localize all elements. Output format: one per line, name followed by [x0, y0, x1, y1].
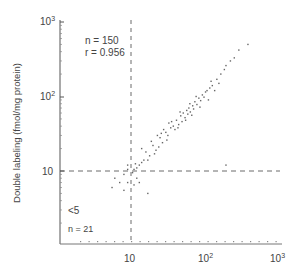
x-tick-10: 10 [124, 253, 136, 264]
below-threshold-point [233, 241, 234, 242]
data-point [191, 115, 192, 116]
data-point [132, 172, 133, 173]
data-point [141, 148, 142, 149]
data-point [139, 164, 140, 165]
data-point [189, 103, 190, 104]
below-threshold-point [191, 241, 192, 242]
below-threshold-point [276, 241, 277, 242]
below-threshold-point [259, 241, 260, 242]
data-point [163, 129, 164, 130]
below-threshold-point [131, 241, 132, 242]
data-point [136, 167, 137, 168]
data-point [187, 113, 188, 114]
data-point [158, 146, 159, 147]
data-point [147, 193, 148, 194]
below-threshold-point [89, 241, 90, 242]
data-point [123, 174, 124, 175]
data-point [147, 159, 148, 160]
annotation-n: n = 150 [85, 35, 119, 46]
below-threshold-point [148, 241, 149, 242]
below-threshold-point [250, 241, 251, 242]
scatter-chart: 103 102 10 10 102 103 n = 150 r = 0.956 … [0, 0, 299, 276]
data-point [198, 97, 199, 98]
data-point [119, 182, 120, 183]
data-point [111, 187, 112, 188]
data-point [161, 133, 162, 134]
data-point [133, 184, 134, 185]
data-point [165, 132, 166, 133]
data-point [177, 127, 178, 128]
data-point [174, 129, 175, 130]
below-threshold-point [242, 241, 243, 242]
below-threshold-point [114, 241, 115, 242]
data-point [173, 125, 174, 126]
data-point [238, 49, 239, 50]
data-point [123, 190, 124, 191]
annotation-n21: n = 21 [68, 224, 93, 234]
below-threshold-point [140, 241, 141, 242]
below-threshold-point [80, 241, 81, 242]
data-point [224, 69, 225, 70]
data-point [199, 106, 200, 107]
data-point [114, 178, 115, 179]
data-point [183, 112, 184, 113]
data-point [149, 155, 150, 156]
data-point [180, 115, 181, 116]
data-point [127, 164, 128, 165]
data-point [247, 44, 248, 45]
data-point [206, 90, 207, 91]
data-point [127, 169, 128, 170]
data-point [203, 96, 204, 97]
data-point [185, 120, 186, 121]
below-threshold-point [174, 241, 175, 242]
data-point [225, 164, 226, 165]
x-tick-1000: 103 [270, 252, 285, 264]
below-threshold-point [208, 241, 209, 242]
data-point [159, 137, 160, 138]
data-point [202, 94, 203, 95]
data-point [155, 150, 156, 151]
data-point [194, 101, 195, 102]
data-point [220, 73, 221, 74]
y-tick-100: 102 [40, 90, 55, 102]
data-point [135, 163, 136, 164]
data-point [139, 182, 140, 183]
data-point [127, 182, 128, 183]
data-point [145, 151, 146, 152]
y-axis-label: Double labeling (fmol/mg protein) [11, 63, 22, 203]
data-point [133, 169, 134, 170]
data-point [154, 153, 155, 154]
data-point [151, 141, 152, 142]
data-point [143, 159, 144, 160]
below-threshold-point [216, 241, 217, 242]
data-point [188, 107, 189, 108]
below-threshold-point [225, 241, 226, 242]
data-point [167, 135, 168, 136]
below-threshold-point [199, 241, 200, 242]
data-point [186, 110, 187, 111]
data-point [176, 120, 177, 121]
data-point [162, 142, 163, 143]
annotation-r: r = 0.956 [85, 47, 125, 58]
data-point [170, 127, 171, 128]
data-point [200, 100, 201, 101]
data-point [214, 90, 215, 91]
data-point [168, 122, 169, 123]
data-point [208, 99, 209, 100]
data-point [209, 87, 210, 88]
data-point [216, 79, 217, 80]
below-threshold-point [97, 241, 98, 242]
data-point [218, 83, 219, 84]
data-point [184, 117, 185, 118]
below-threshold-point [157, 241, 158, 242]
data-point [195, 96, 196, 97]
below-threshold-point [165, 241, 166, 242]
data-point [196, 104, 197, 105]
data-point [136, 178, 137, 179]
x-tick-100: 102 [198, 252, 213, 264]
below-threshold-point [123, 241, 124, 242]
data-point [230, 60, 231, 61]
below-threshold-point [106, 241, 107, 242]
data-point [210, 81, 211, 82]
y-tick-10: 10 [42, 166, 54, 177]
